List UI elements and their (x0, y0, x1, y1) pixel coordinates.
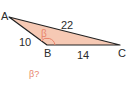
vertex-c-label: C (118, 48, 126, 59)
vertex-a-label: A (1, 11, 8, 22)
vertex-b-label: B (44, 48, 51, 59)
side-ac-length: 22 (61, 20, 73, 31)
question-text: β? (29, 70, 39, 79)
side-bc-length: 14 (77, 50, 89, 61)
angle-beta-label: β (41, 29, 47, 39)
side-ab-length: 10 (19, 37, 31, 48)
